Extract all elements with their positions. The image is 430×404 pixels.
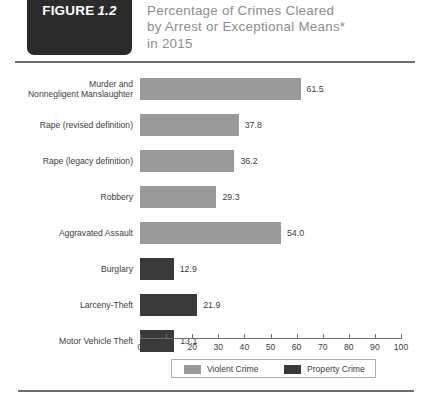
x-axis-tick-label: 90 — [370, 342, 380, 352]
legend-swatch-violent — [184, 365, 201, 374]
x-axis-tick — [244, 334, 245, 339]
x-axis-tick — [323, 334, 324, 339]
x-axis-tick-label: 60 — [292, 342, 302, 352]
bar-value-label: 21.9 — [203, 300, 220, 310]
bar-row: Burglary12.9 — [0, 258, 430, 280]
bar-row: Rape (legacy definition)36.2 — [0, 150, 430, 172]
bar-value-label: 37.8 — [245, 120, 262, 130]
bar-value-label: 54.0 — [287, 228, 304, 238]
bar-value-label: 29.3 — [222, 192, 239, 202]
figure-number-tab: FIGURE1.2 — [27, 0, 132, 55]
bar-category-label: Aggravated Assault — [0, 228, 133, 238]
x-axis-tick — [218, 334, 219, 339]
bar-violent — [140, 186, 216, 208]
bar-property — [140, 258, 174, 280]
figure-label: FIGURE — [42, 3, 94, 18]
legend-item-violent: Violent Crime — [184, 364, 258, 374]
bar-property — [140, 294, 197, 316]
x-axis-tick — [140, 334, 141, 339]
bar-violent — [140, 222, 281, 244]
bar-value-label: 12.9 — [180, 264, 197, 274]
legend-label-violent: Violent Crime — [207, 364, 258, 374]
bar-category-label: Rape (legacy definition) — [0, 156, 133, 166]
bar-row: Murder andNonnegligent Manslaughter61.5 — [0, 78, 430, 100]
x-axis-tick — [349, 334, 350, 339]
x-axis-tick-label: 10 — [161, 342, 171, 352]
x-axis-tick-label: 40 — [240, 342, 250, 352]
bar-category-label: Murder andNonnegligent Manslaughter — [0, 79, 133, 100]
figure-header: FIGURE1.2 Percentage of Crimes Cleared b… — [0, 0, 430, 63]
bar-row: Larceny-Theft21.9 — [0, 294, 430, 316]
figure-number: 1.2 — [97, 3, 116, 18]
chart-title-line-2: by Arrest or Exceptional Means* — [147, 19, 427, 35]
legend-item-property: Property Crime — [284, 364, 365, 374]
chart-title-line-1: Percentage of Crimes Cleared — [147, 3, 427, 19]
bar-category-label: Burglary — [0, 264, 133, 274]
bar-violent — [140, 114, 239, 136]
bar-value-label: 36.2 — [240, 156, 257, 166]
bar-violent — [140, 150, 234, 172]
x-axis-tick — [375, 334, 376, 339]
x-axis-tick — [166, 334, 167, 339]
bar-category-label: Rape (revised definition) — [0, 120, 133, 130]
chart-legend: Violent CrimeProperty Crime — [171, 359, 376, 378]
x-axis-tick-label: 70 — [318, 342, 328, 352]
legend-swatch-property — [284, 365, 301, 374]
x-axis-tick — [401, 334, 402, 339]
x-axis-tick-label: 20 — [187, 342, 197, 352]
x-axis-tick — [297, 334, 298, 339]
figure-tab-text: FIGURE1.2 — [27, 3, 132, 18]
footer-divider-rule — [18, 390, 414, 392]
x-axis-tick-label: 30 — [214, 342, 224, 352]
bar-row: Rape (revised definition)37.8 — [0, 114, 430, 136]
x-axis-tick — [271, 334, 272, 339]
x-axis-tick-label: 80 — [344, 342, 354, 352]
x-axis-tick-label: 100 — [394, 342, 408, 352]
x-axis-tick — [192, 334, 193, 339]
bar-category-label: Robbery — [0, 192, 133, 202]
x-axis: 0102030405060708090100 — [0, 338, 430, 360]
bar-row: Robbery29.3 — [0, 186, 430, 208]
bar-violent — [140, 78, 301, 100]
x-axis-tick-label: 50 — [266, 342, 276, 352]
chart-title-line-3: in 2015 — [147, 36, 427, 52]
chart-title: Percentage of Crimes Cleared by Arrest o… — [147, 3, 427, 52]
bar-value-label: 61.5 — [307, 84, 324, 94]
bar-category-label: Larceny-Theft — [0, 300, 133, 310]
legend-label-property: Property Crime — [307, 364, 365, 374]
bar-row: Aggravated Assault54.0 — [0, 222, 430, 244]
x-axis-tick-label: 0 — [138, 342, 143, 352]
